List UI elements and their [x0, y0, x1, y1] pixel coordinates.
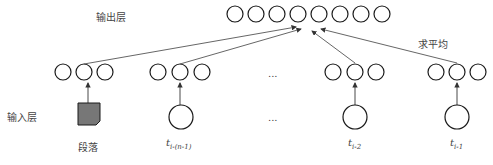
embedding-group-t-i-2 [325, 64, 384, 80]
paragraph-label: 段落 [78, 139, 98, 154]
input-label-t-i-2: ti-2 [348, 137, 361, 151]
ellipsis-mid: ... [268, 68, 278, 79]
paragraph-document-icon [78, 103, 100, 125]
ellipsis-bottom: ... [268, 112, 278, 123]
embedding-group-paragraph [55, 64, 113, 80]
input-label-t-i-n-1: ti-(n-1) [166, 137, 191, 151]
input-layer-nodes [169, 105, 469, 129]
average-label: 求平均 [418, 36, 448, 51]
embedding-group-t-i-n-1 [150, 64, 210, 80]
diagram-canvas [0, 0, 493, 165]
output-layer-label: 输出层 [96, 9, 126, 24]
input-arrows [88, 83, 457, 105]
embedding-group-t-i-1 [428, 64, 486, 80]
input-layer-label: 输入层 [7, 109, 37, 124]
input-label-t-i-1: ti-1 [450, 137, 463, 151]
average-arrows [84, 27, 457, 64]
output-layer-nodes [227, 6, 390, 22]
